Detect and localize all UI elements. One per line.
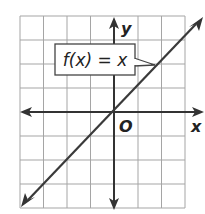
x-axis-label: x — [190, 117, 202, 136]
function-label-callout: f(x) = x — [55, 44, 155, 75]
function-label: f(x) = x — [63, 50, 128, 70]
coordinate-graph: f(x) = x y x O — [0, 0, 205, 214]
y-axis-label: y — [121, 19, 132, 38]
callout-pointer — [134, 58, 155, 66]
origin-label: O — [119, 117, 133, 136]
